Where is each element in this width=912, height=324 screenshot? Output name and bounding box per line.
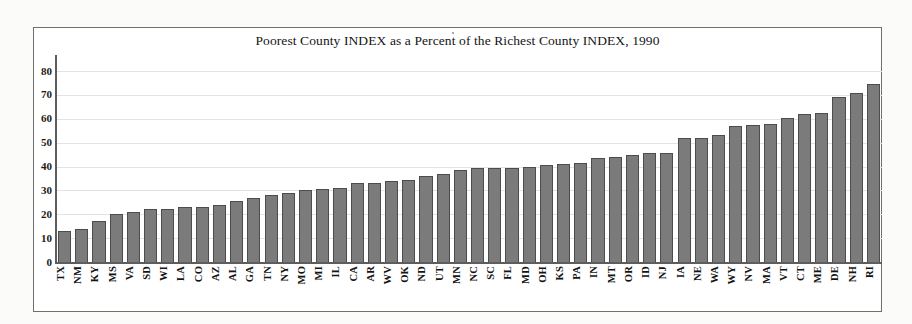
- x-tick-label: TN: [263, 266, 280, 281]
- x-tick-label: CA: [349, 266, 366, 282]
- x-tick-label: RI: [865, 266, 882, 278]
- y-tick-label: 40: [30, 161, 52, 172]
- x-tick-label: NJ: [658, 266, 675, 279]
- x-tick-label: TX: [56, 266, 73, 281]
- x-tick-label: CT: [796, 266, 813, 281]
- x-tick-label: SD: [142, 266, 159, 280]
- x-tick-label: MA: [762, 266, 779, 284]
- x-tick-label: MO: [297, 266, 314, 284]
- x-tick-label: MT: [607, 266, 624, 283]
- x-tick-label: MN: [452, 266, 469, 284]
- x-tick-label: IA: [676, 266, 693, 278]
- x-tick-label: KS: [555, 266, 572, 280]
- y-axis-tick-labels: 01020304050607080: [28, 0, 52, 324]
- x-tick-label: MI: [314, 266, 331, 280]
- x-tick-label: ND: [417, 266, 434, 282]
- x-tick-label: OK: [400, 266, 417, 283]
- x-tick-label: NV: [744, 266, 761, 282]
- y-tick-label: 50: [30, 137, 52, 148]
- x-tick-label: WI: [159, 266, 176, 281]
- y-tick-label: 0: [30, 257, 52, 268]
- x-tick-label: AL: [228, 266, 245, 281]
- x-tick-label: NH: [848, 266, 865, 282]
- x-tick-label: NM: [73, 266, 90, 284]
- x-tick-label: KY: [90, 266, 107, 282]
- x-tick-label: AR: [366, 266, 383, 282]
- x-tick-label: PA: [572, 266, 589, 280]
- x-tick-label: MS: [108, 266, 125, 282]
- y-tick-label: 60: [30, 113, 52, 124]
- x-axis-tick-labels: TXNMKYMSVASDWILACOAZALGATNNYMOMIILCAARWV…: [56, 0, 882, 324]
- page-canvas: Poorest County INDEX as a Percent of the…: [0, 0, 912, 324]
- x-tick-label: WY: [727, 266, 744, 284]
- x-tick-label: FL: [503, 266, 520, 280]
- x-tick-label: VT: [779, 266, 796, 281]
- x-tick-label: NE: [693, 266, 710, 281]
- x-tick-label: GA: [245, 266, 262, 282]
- x-tick-label: SC: [486, 266, 503, 280]
- x-tick-label: ME: [813, 266, 830, 283]
- x-tick-label: VA: [125, 266, 142, 280]
- x-tick-label: ID: [641, 266, 658, 278]
- x-tick-label: NC: [469, 266, 486, 282]
- y-tick-label: 20: [30, 209, 52, 220]
- x-tick-label: MD: [521, 266, 538, 284]
- x-tick-label: AZ: [211, 266, 228, 281]
- y-tick-label: 30: [30, 185, 52, 196]
- y-tick-label: 80: [30, 66, 52, 77]
- x-tick-label: DE: [830, 266, 847, 281]
- y-tick-label: 10: [30, 233, 52, 244]
- x-tick-label: OR: [624, 266, 641, 282]
- x-tick-label: IL: [331, 266, 348, 278]
- x-tick-label: LA: [176, 266, 193, 281]
- x-tick-label: NY: [280, 266, 297, 282]
- x-tick-label: WV: [383, 266, 400, 284]
- x-tick-label: CO: [194, 266, 211, 282]
- x-tick-label: WA: [710, 266, 727, 283]
- x-tick-label: UT: [435, 266, 452, 281]
- x-tick-label: IN: [589, 266, 606, 278]
- x-tick-label: OH: [538, 266, 555, 283]
- y-tick-label: 70: [30, 89, 52, 100]
